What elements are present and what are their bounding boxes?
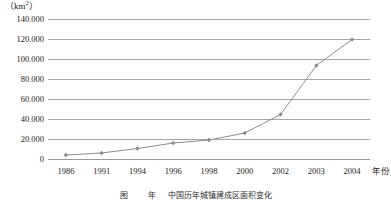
y-axis-tick-label: 140.000 [16, 15, 44, 24]
y-axis-tick-label: 0 [40, 155, 44, 164]
series-polyline [66, 40, 352, 156]
y-axis-unit-label: （km2） [5, 1, 38, 12]
data-point-marker [207, 138, 211, 142]
figure-caption: 图 年 中国历年城镇建成区面积变化 [0, 190, 391, 200]
x-axis-tick-label: 1991 [93, 166, 110, 177]
data-point-marker [99, 151, 103, 155]
y-axis-unit-prefix: （km [5, 1, 26, 11]
x-axis-tick-labels: 198619911994199619982000200220032004 [48, 166, 370, 180]
data-point-marker [64, 153, 68, 157]
x-axis-tick-label: 2002 [272, 166, 289, 177]
y-axis-tick-label: 120.000 [16, 35, 44, 44]
x-axis-title: 年份 [372, 166, 390, 177]
x-axis-tick-label: 1996 [165, 166, 182, 177]
y-axis-tick-label: 60.000 [21, 95, 44, 104]
data-point-marker [171, 141, 175, 145]
plot-area [48, 19, 370, 159]
y-axis-tick-labels: 020.00040.00060.00080.000100.000120.0001… [0, 19, 44, 159]
x-axis-tick-label: 2004 [344, 166, 361, 177]
y-axis-tick-label: 80.000 [21, 75, 44, 84]
x-axis-tick-label: 1994 [129, 166, 146, 177]
x-axis-tick-label: 1986 [57, 166, 74, 177]
y-axis-tick-label: 100.000 [16, 55, 44, 64]
data-point-marker [135, 146, 139, 150]
chart-figure: （km2） 020.00040.00060.00080.000100.00012… [0, 0, 391, 200]
y-axis-unit-suffix: ） [29, 1, 38, 11]
x-axis-tick-label: 2000 [236, 166, 253, 177]
data-series-line [48, 19, 370, 159]
y-axis-tick-label: 40.000 [21, 115, 44, 124]
data-point-marker [243, 131, 247, 135]
y-axis-tick-label: 20.000 [21, 135, 44, 144]
x-axis-tick-label: 2003 [308, 166, 325, 177]
x-axis-tick-label: 1998 [201, 166, 218, 177]
